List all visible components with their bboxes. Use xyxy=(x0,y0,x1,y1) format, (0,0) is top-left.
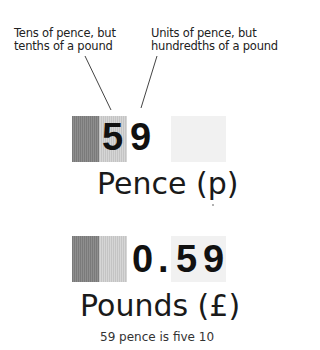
pounds-decimal-point: . xyxy=(158,236,169,282)
pence-digit-units: 9 xyxy=(130,114,151,160)
units-leader-line xyxy=(141,56,157,108)
stray-mark xyxy=(212,204,214,206)
pounds-caption: Pounds (£) xyxy=(80,288,240,324)
pence-tens-dark-box xyxy=(72,116,99,162)
footer-caption: 59 pence is five 10 xyxy=(100,330,214,344)
pounds-digit-hundredths: 9 xyxy=(203,236,224,282)
pounds-light-box xyxy=(99,236,127,282)
pounds-digit-units: 0 xyxy=(132,236,153,282)
pence-digit-tens: 5 xyxy=(102,114,123,160)
pence-caption: Pence (p) xyxy=(97,166,238,202)
pounds-digit-tenths: 5 xyxy=(176,236,197,282)
tens-leader-line xyxy=(85,56,111,110)
pounds-dark-box xyxy=(72,236,99,282)
pence-pale-box xyxy=(171,116,226,162)
